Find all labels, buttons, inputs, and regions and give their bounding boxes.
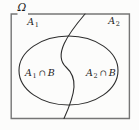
label-omega: Ω xyxy=(18,2,27,13)
label-a1: A1 xyxy=(27,17,38,27)
a1-variable: A xyxy=(27,16,34,27)
set-diagram: Ω A1 A2 A1∩B A2∩B xyxy=(0,0,139,130)
a2b-set-b: B xyxy=(109,67,116,78)
a1b-subscript: 1 xyxy=(32,72,36,80)
partition-curve xyxy=(61,14,85,119)
a1b-variable: A xyxy=(25,67,32,78)
a2b-variable: A xyxy=(86,67,93,78)
a2-variable: A xyxy=(108,15,115,26)
label-a1-intersect-b: A1∩B xyxy=(25,68,55,78)
label-a2: A2 xyxy=(108,16,119,26)
intersection-symbol: ∩ xyxy=(99,68,106,78)
a1b-set-b: B xyxy=(48,67,55,78)
label-a2-intersect-b: A2∩B xyxy=(86,68,116,78)
a2-subscript: 2 xyxy=(116,20,120,28)
a2b-subscript: 2 xyxy=(93,72,97,80)
intersection-symbol: ∩ xyxy=(38,68,45,78)
a1-subscript: 1 xyxy=(35,21,39,29)
